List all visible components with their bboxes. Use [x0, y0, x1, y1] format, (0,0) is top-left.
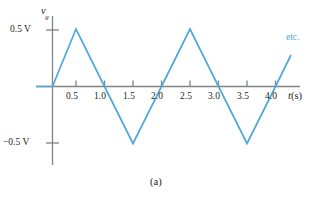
y-axis-title: vg	[41, 6, 49, 19]
y-axis-subscript: g	[45, 13, 49, 21]
figure-caption: (a)	[150, 177, 162, 188]
etc-annotation: etc.	[286, 33, 299, 43]
x-tick-label-0-5: 0.5	[66, 92, 78, 102]
figure-triangular-waveform: vg 0.5 V −0.5 V 0.5 1.0 1.5 2.0 2.5 3.0 …	[0, 0, 313, 197]
x-tick-label-1-5: 1.5	[123, 92, 135, 102]
x-tick-label-4-0: 4.0	[265, 92, 277, 102]
x-axis-title: t(s)	[288, 91, 302, 102]
x-tick-label-3-0: 3.0	[208, 92, 220, 102]
y-tick-label-positive: 0.5 V	[10, 25, 31, 35]
x-axis-unit: (s)	[291, 90, 302, 101]
x-tick-label-2-5: 2.5	[180, 92, 192, 102]
y-tick-label-negative: −0.5 V	[3, 138, 29, 148]
x-tick-label-1-0: 1.0	[94, 92, 106, 102]
x-tick-label-2-0: 2.0	[151, 92, 163, 102]
x-tick-label-3-5: 3.5	[237, 92, 249, 102]
